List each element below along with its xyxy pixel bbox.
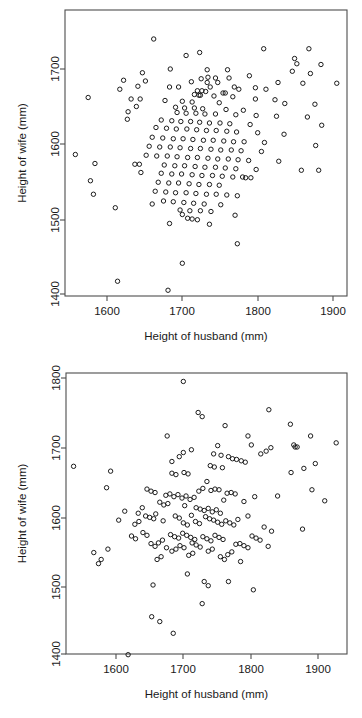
data-point (210, 547, 214, 551)
data-point (174, 127, 178, 131)
x-axis-title: Height of husband (mm) (144, 330, 268, 342)
data-point (231, 175, 235, 179)
data-point (198, 545, 202, 549)
data-point (175, 155, 179, 159)
data-point (269, 445, 273, 449)
data-point (201, 486, 205, 490)
data-point (288, 422, 292, 426)
data-point (214, 128, 218, 132)
data-point (207, 121, 211, 125)
scatter-panel-bottom: 160017001800190014001500160017001800Heig… (0, 358, 362, 718)
data-point (126, 652, 130, 656)
data-point (115, 279, 119, 283)
data-point (200, 601, 204, 605)
data-point (137, 162, 141, 166)
data-point (129, 97, 133, 101)
data-point (88, 179, 92, 183)
data-point (194, 111, 198, 115)
data-point (335, 81, 339, 85)
data-point (93, 161, 97, 165)
data-point (153, 490, 157, 494)
data-point (213, 165, 217, 169)
data-point (266, 544, 270, 548)
data-point (275, 494, 279, 498)
data-point (211, 138, 215, 142)
plot-frame (66, 373, 347, 654)
data-point (253, 97, 257, 101)
data-point (207, 182, 211, 186)
data-point (216, 157, 220, 161)
data-point (204, 192, 208, 196)
data-point (262, 140, 266, 144)
data-point (180, 261, 184, 265)
data-point (141, 530, 145, 534)
data-point (176, 85, 180, 89)
data-point (192, 92, 196, 96)
data-point (91, 192, 95, 196)
data-point (253, 494, 257, 498)
data-point (164, 546, 168, 550)
data-point (222, 139, 226, 143)
data-point (182, 106, 186, 110)
data-point (222, 557, 226, 561)
data-point (299, 168, 303, 172)
data-point (153, 544, 157, 548)
data-point (188, 146, 192, 150)
data-point (308, 71, 312, 75)
data-point (191, 551, 195, 555)
x-axis-tick-label: 1800 (245, 305, 271, 317)
data-point (86, 95, 90, 99)
data-point (206, 583, 210, 587)
data-point (161, 199, 165, 203)
data-point (129, 534, 133, 538)
data-point (181, 379, 185, 383)
data-point (236, 158, 240, 162)
data-point (170, 119, 174, 123)
data-point (200, 414, 204, 418)
data-point (197, 120, 201, 124)
data-point (71, 464, 75, 468)
data-point (259, 452, 263, 456)
data-point (170, 459, 174, 463)
data-point (136, 511, 140, 515)
data-point (198, 146, 202, 150)
data-point (230, 550, 234, 554)
data-point (307, 47, 311, 51)
data-point (174, 472, 178, 476)
data-point (185, 127, 189, 131)
data-point (198, 209, 202, 213)
data-point (116, 518, 120, 522)
data-point (104, 486, 108, 490)
data-point (269, 529, 273, 533)
data-point (259, 149, 263, 153)
data-point (185, 572, 189, 576)
data-point (144, 153, 148, 157)
data-point (208, 85, 212, 89)
data-point (184, 53, 188, 57)
data-point (238, 559, 242, 563)
data-point (181, 450, 185, 454)
data-point (220, 174, 224, 178)
data-point (228, 122, 232, 126)
data-point (308, 434, 312, 438)
data-point (249, 443, 253, 447)
data-point (249, 176, 253, 180)
y-axis-tick-label: 1600 (49, 131, 61, 157)
data-point (235, 242, 239, 246)
data-point (313, 461, 317, 465)
data-point (220, 466, 224, 470)
data-point (191, 201, 195, 205)
data-point (194, 191, 198, 195)
data-point (313, 143, 317, 147)
data-point (226, 157, 230, 161)
data-point (182, 200, 186, 204)
data-point (167, 221, 171, 225)
data-point (234, 167, 238, 171)
data-point (209, 147, 213, 151)
data-point (99, 557, 103, 561)
data-point (170, 172, 174, 176)
data-point (219, 453, 223, 457)
data-point (214, 192, 218, 196)
data-point (205, 479, 209, 483)
data-point (323, 499, 327, 503)
